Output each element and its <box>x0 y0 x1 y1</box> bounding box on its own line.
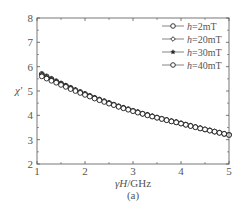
circle-marker <box>39 74 44 79</box>
x-tick-label: 4 <box>178 165 184 177</box>
legend-label: h=2mT <box>187 21 217 32</box>
y-tick-label: 5 <box>28 85 34 97</box>
circle-marker <box>126 107 131 112</box>
circle-marker <box>140 111 145 116</box>
x-axis-label: γH/GHz <box>115 177 151 189</box>
circle-marker <box>111 103 116 108</box>
legend-label-value: =40mT <box>192 60 222 71</box>
y-tick-label: 6 <box>28 61 34 73</box>
circle-marker <box>121 106 126 111</box>
circle-marker <box>179 121 184 126</box>
circle-marker <box>217 130 222 135</box>
legend-label-value: =2mT <box>192 21 217 32</box>
circle-marker <box>145 113 150 118</box>
circle-marker <box>83 92 88 97</box>
circle-marker <box>164 118 169 123</box>
legend-label-value: =20mT <box>192 34 222 45</box>
x-tick-label: 5 <box>226 165 232 177</box>
circle-marker <box>171 24 176 29</box>
circle-marker <box>73 89 78 94</box>
x-tick-label: 3 <box>130 165 136 177</box>
circle-marker <box>44 76 49 81</box>
x-axis-label-unit: /GHz <box>127 177 151 189</box>
circle-marker <box>135 110 140 115</box>
figure-caption: (a) <box>127 189 140 202</box>
chart-figure: 123452345678 χ' γH/GHz (a) h=2mTh=20mTh=… <box>0 0 249 217</box>
circle-marker <box>150 114 155 119</box>
circle-marker <box>78 91 83 96</box>
circle-marker <box>193 125 198 130</box>
circle-marker <box>97 98 102 103</box>
circle-marker <box>174 120 179 125</box>
circle-marker <box>63 84 68 89</box>
circle-marker <box>54 80 59 85</box>
y-axis-label: χ' <box>14 84 23 96</box>
legend-label-value: =30mT <box>192 47 222 58</box>
circle-marker <box>116 104 121 109</box>
circle-marker <box>171 63 176 68</box>
circle-marker <box>169 119 174 124</box>
legend-label: h=30mT <box>187 47 222 58</box>
y-tick-label: 8 <box>28 12 34 24</box>
circle-marker <box>49 78 54 83</box>
circle-marker <box>131 109 136 114</box>
x-tick-label: 1 <box>34 165 40 177</box>
circle-marker <box>159 117 164 122</box>
y-tick-label: 7 <box>28 36 34 48</box>
circle-marker <box>107 101 112 106</box>
circle-marker <box>188 124 193 129</box>
y-tick-label: 3 <box>28 134 34 146</box>
y-tick-label: 4 <box>28 109 34 121</box>
circle-marker <box>198 126 203 131</box>
circle-marker <box>207 128 212 133</box>
circle-marker <box>92 96 97 101</box>
y-tick-label: 2 <box>28 158 34 170</box>
circle-marker <box>203 127 208 132</box>
x-tick-label: 2 <box>82 165 88 177</box>
circle-marker <box>222 131 227 136</box>
circle-marker <box>212 129 217 134</box>
legend-label: h=40mT <box>187 60 222 71</box>
circle-marker <box>102 100 107 105</box>
circle-marker <box>155 115 160 120</box>
circle-marker <box>59 83 64 88</box>
legend-label: h=20mT <box>187 34 222 45</box>
circle-marker <box>87 94 92 99</box>
circle-marker <box>68 87 73 92</box>
circle-marker <box>183 122 188 127</box>
